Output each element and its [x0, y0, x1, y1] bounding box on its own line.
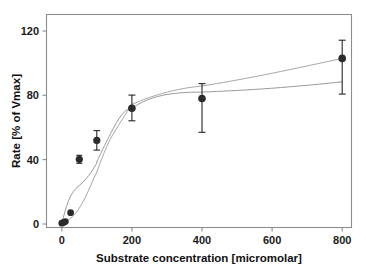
y-tick-label-80: 80 — [27, 89, 39, 101]
x-tick-label-0: 0 — [59, 234, 65, 246]
plot-frame — [47, 15, 352, 228]
x-tick-label-600: 600 — [263, 234, 281, 246]
data-point — [338, 55, 346, 63]
data-point — [128, 104, 136, 112]
error-bars — [76, 40, 345, 163]
data-point — [67, 209, 74, 216]
data-point — [198, 95, 206, 103]
x-tick-label-800: 800 — [333, 234, 351, 246]
data-point — [62, 218, 69, 225]
y-axis-ticks — [43, 31, 47, 224]
x-axis-title: Substrate concentration [micromolar] — [96, 252, 302, 264]
scatter-plot: 120 80 40 0 0 200 400 600 800 Substrate … — [0, 0, 366, 276]
x-axis-ticks — [62, 228, 342, 232]
data-point — [76, 156, 83, 163]
x-tick-label-400: 400 — [193, 234, 211, 246]
x-tick-label-200: 200 — [123, 234, 141, 246]
y-tick-label-0: 0 — [33, 218, 39, 230]
y-tick-label-40: 40 — [27, 154, 39, 166]
figure-container: 120 80 40 0 0 200 400 600 800 Substrate … — [0, 0, 366, 276]
data-point — [93, 137, 100, 144]
data-markers — [58, 55, 346, 227]
y-axis-title: Rate [% of Vmax] — [10, 74, 22, 168]
y-tick-label-120: 120 — [21, 25, 39, 37]
